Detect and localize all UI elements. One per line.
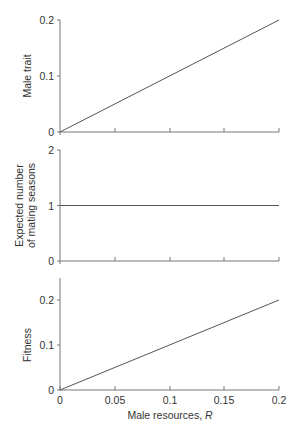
x-axis-label-text: Male resources,: [127, 409, 205, 421]
y-tick-label: 1: [48, 200, 54, 212]
x-tick-label: 0.1: [163, 394, 178, 406]
panel-male-trait: 0.2 0.1 0 Male trait: [21, 14, 279, 138]
y-tick-label: 0.1: [39, 70, 54, 82]
x-axis-label-variable: R: [205, 409, 213, 421]
y-tick-label: 0: [48, 255, 54, 267]
y-tick-label: 0.2: [39, 14, 54, 26]
x-tick-label: 0: [57, 394, 63, 406]
y-axis-label-line-2: of mating seasons: [25, 163, 37, 248]
y-tick-label: 0: [48, 126, 54, 138]
y-axis-label-line-1: Expected number: [13, 164, 25, 247]
y-tick-label: 0.2: [39, 294, 54, 306]
data-line-male-trait: [60, 20, 279, 132]
x-tick-label: 0.15: [214, 394, 235, 406]
y-tick-label: 0: [48, 384, 54, 396]
y-axis-label: Male trait: [21, 54, 33, 97]
y-tick-label: 0.1: [39, 339, 54, 351]
x-tick-label: 0.05: [105, 394, 126, 406]
figure: 0.2 0.1 0 Male trait 2 1 0 Expected numb…: [0, 0, 299, 437]
x-axis-label: Male resources, R: [127, 409, 213, 421]
x-tick-label: 0.2: [272, 394, 287, 406]
y-axis-label: Fitness: [21, 328, 33, 362]
panel-mating-seasons: 2 1 0 Expected number of mating seasons: [13, 144, 279, 267]
data-line-fitness: [60, 300, 279, 390]
x-ticks: [60, 386, 279, 390]
panel-fitness: 0.2 0.1 0 0 0.05 0.1 0.15 0.2 Fitness Ma…: [21, 278, 286, 421]
y-tick-label: 2: [48, 144, 54, 156]
